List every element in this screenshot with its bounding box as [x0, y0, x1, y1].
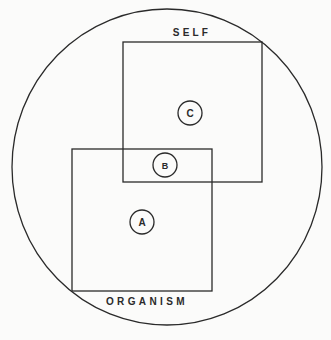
region-a-marker: A: [130, 210, 154, 234]
region-c-marker: C: [178, 101, 202, 125]
region-a-label: A: [138, 217, 145, 228]
diagram-canvas: SELF ORGANISM C B A: [0, 0, 331, 340]
region-b-label: B: [162, 161, 169, 171]
self-label: SELF: [173, 27, 211, 38]
region-c-label: C: [186, 108, 193, 119]
region-b-marker: B: [153, 153, 177, 177]
organism-label: ORGANISM: [106, 296, 188, 307]
